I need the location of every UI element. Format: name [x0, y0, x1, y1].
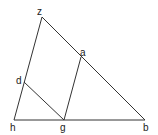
geometry-diagram: z a d h g b [0, 0, 158, 135]
segment-zb [42, 17, 145, 120]
label-h: h [10, 122, 16, 133]
label-z: z [37, 6, 42, 17]
label-d: d [16, 75, 22, 86]
label-g: g [60, 122, 66, 133]
segment-zh [14, 17, 42, 120]
segment-ag [64, 57, 81, 120]
label-a: a [80, 47, 86, 58]
segment-dg [24, 82, 64, 120]
label-b: b [143, 122, 149, 133]
